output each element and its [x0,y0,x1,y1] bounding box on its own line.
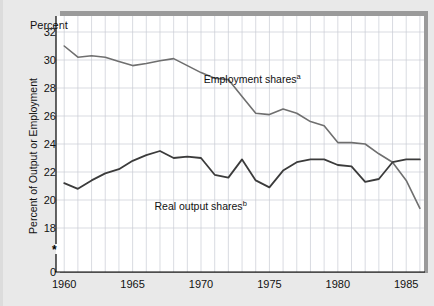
x-tick-1975: 1975 [257,278,281,290]
annotation-text: Real output shares [154,200,242,212]
x-tick-1970: 1970 [189,278,213,290]
employment-shares-label: Employment sharesa [204,73,301,85]
x-tick-1960: 1960 [52,278,76,290]
x-tick-1985: 1985 [394,278,418,290]
real-output-shares-label: Real output sharesb [154,200,246,212]
grid-lines [56,16,424,272]
annotation-footnote: a [297,71,301,80]
x-tick-1980: 1980 [326,278,350,290]
chart-plot-area [0,0,434,306]
chart-figure: Percent Percent of Output or Employment … [0,0,434,306]
annotation-footnote: b [243,199,247,208]
annotation-text: Employment shares [204,73,297,85]
axis-break-marker: * [52,244,57,256]
x-tick-1965: 1965 [120,278,144,290]
